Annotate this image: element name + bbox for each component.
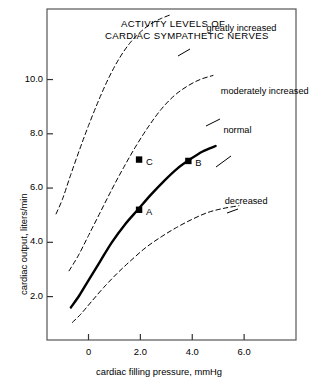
leader-moderately-increased [206,119,220,126]
curve-label-normal: normal [223,125,251,136]
x-tick-label-6.0: 6.0 [226,347,262,358]
curve-greatly-increased [56,14,171,213]
y-axis-label-wrap: cardiac output, liters/min [4,0,22,340]
curve-label-greatly-increased: greatly increased [207,23,277,34]
x-tick-label-0: 0 [71,347,107,358]
leader-greatly-increased [178,49,190,56]
data-point-C [136,156,142,162]
data-point-A [136,207,142,213]
data-point-B [185,158,191,164]
x-tick-label-2.0: 2.0 [122,347,158,358]
chart-figure: ACTIVITY LEVELS OF CARDIAC SYMPATHETIC N… [0,0,322,388]
x-tick-label-4.0: 4.0 [174,347,210,358]
data-point-label-B: B [195,158,201,169]
leader-normal [216,156,231,167]
y-tick-label-2.0: 2.0 [17,291,43,302]
data-point-label-C: C [146,157,153,168]
curve-label-decreased: decreased [225,196,268,207]
x-axis-label: cardiac filling pressure, mmHg [96,367,222,378]
leader-decreased [227,209,238,213]
y-tick-label-6.0: 6.0 [17,182,43,193]
y-tick-label-10.0: 10.0 [17,74,43,85]
curve-moderately-increased [69,75,213,270]
y-tick-label-8.0: 8.0 [17,128,43,139]
y-tick-label-4.0: 4.0 [17,236,43,247]
plot-svg [0,0,322,388]
curve-label-moderately-increased: moderately increased [221,86,309,97]
data-point-label-A: A [146,207,152,218]
